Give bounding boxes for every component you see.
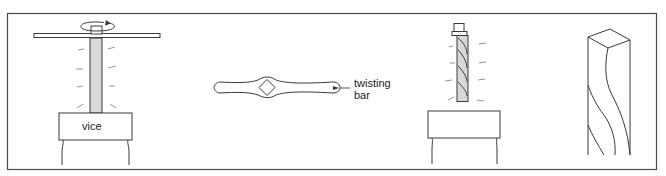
twisting-bar-label-line1: twisting	[354, 78, 391, 89]
diagram-canvas	[0, 0, 666, 176]
bar-top-face	[588, 29, 630, 48]
vice-label: vice	[82, 121, 102, 132]
spiral-edge-2	[588, 85, 615, 155]
panel-twisted-bar-detail	[588, 29, 630, 155]
panel-twisted-in-vice	[428, 24, 500, 165]
bar-top	[91, 26, 102, 34]
panel-twisting-bar	[214, 77, 350, 98]
spiral-edge-3	[588, 125, 604, 155]
twisting-bar-end	[452, 32, 467, 36]
spiral-edge-1	[606, 48, 630, 155]
vice-jaw	[428, 111, 500, 138]
twisting-bar-body	[214, 77, 340, 98]
vice-body-left	[62, 140, 63, 165]
panel-vice-twisting	[34, 20, 160, 165]
vice-body-right	[128, 140, 129, 165]
bar-top	[454, 24, 464, 32]
arrow-head-icon	[105, 20, 111, 26]
square-bar	[90, 38, 102, 113]
twisted-bar	[457, 36, 468, 102]
twisting-bar-label-line2: bar	[354, 90, 370, 101]
